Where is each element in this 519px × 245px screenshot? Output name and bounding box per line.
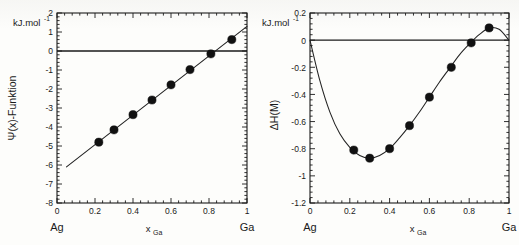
data-point <box>350 146 358 154</box>
data-point <box>485 24 493 32</box>
data-point <box>425 93 433 101</box>
chart-panel-right: -1.2-1-0.8-0.6-0.4-0.200.2 00.20.40.60.8… <box>260 0 519 245</box>
data-point <box>447 63 455 71</box>
data-point <box>167 81 175 89</box>
data-point <box>129 111 137 119</box>
left-unit-label: kJ.mol <box>13 17 40 28</box>
right-fit-curve <box>310 27 509 158</box>
l-x-tick-label: 0.8 <box>203 206 215 216</box>
data-point <box>110 126 118 134</box>
r-y-tick-label: -0.2 <box>291 63 306 73</box>
left-x-axis-title-subscript: Ga <box>153 229 162 236</box>
l-y-tick-label: 1 <box>48 27 53 37</box>
l-y-tick-label: -5 <box>45 141 53 151</box>
r-x-tick-label: 0 <box>308 206 313 216</box>
left-y-axis-title: Ψ(x)-Funktion <box>6 75 18 140</box>
data-point <box>405 122 413 130</box>
l-y-tick-label: -4 <box>45 122 53 132</box>
l-x-tick-label: 0.4 <box>127 206 139 216</box>
l-y-tick-label: -6 <box>45 160 53 170</box>
left-data-points <box>95 36 236 147</box>
left-fit-line <box>67 26 248 167</box>
data-point <box>386 145 394 153</box>
left-x-axis-title: x <box>146 223 151 234</box>
left-endmember-ga: Ga <box>240 221 256 233</box>
l-y-tick-label: -7 <box>45 179 53 189</box>
right-chart-svg: -1.2-1-0.8-0.6-0.4-0.200.2 00.20.40.60.8… <box>260 0 519 245</box>
data-point <box>207 50 215 58</box>
right-x-axis-title: x <box>410 223 415 234</box>
l-x-tick-label: 0 <box>55 206 60 216</box>
l-y-tick-label: -1 <box>45 65 53 75</box>
r-curve <box>310 27 509 158</box>
right-y-tick-labels: -1.2-1-0.8-0.6-0.4-0.200.2 <box>291 8 306 208</box>
r-x-tick-label: 1 <box>507 206 512 216</box>
r-x-tick-label: 0.6 <box>423 206 435 216</box>
right-endmember-ga: Ga <box>502 221 518 233</box>
r-x-tick-label: 0.8 <box>463 206 475 216</box>
left-x-tick-labels: 00.20.40.60.81 <box>55 206 250 216</box>
r-y-tick-label: -1 <box>298 171 306 181</box>
right-x-axis-title-subscript: Ga <box>417 229 426 236</box>
data-point <box>186 66 194 74</box>
right-data-points <box>350 24 494 162</box>
right-y-axis-title: ΔH(M) <box>268 100 280 130</box>
right-tick-marks <box>310 13 509 203</box>
right-x-tick-labels: 00.20.40.60.81 <box>308 206 512 216</box>
r-y-tick-label: 0 <box>301 36 306 46</box>
data-point <box>95 138 103 146</box>
l-x-tick-label: 0.2 <box>89 206 101 216</box>
r-y-tick-label: -0.4 <box>291 90 306 100</box>
data-point <box>366 154 374 162</box>
left-tick-marks <box>57 13 247 203</box>
right-axes <box>310 13 509 203</box>
l-curve <box>67 26 248 167</box>
data-point <box>228 36 236 44</box>
r-y-tick-label: -0.6 <box>291 117 306 127</box>
l-y-tick-label: 0 <box>48 46 53 56</box>
right-unit-exponent: -1 <box>293 15 299 22</box>
data-point <box>148 96 156 104</box>
r-x-tick-label: 0.2 <box>344 206 356 216</box>
left-unit-exponent: -1 <box>44 15 50 22</box>
l-y-tick-label: -2 <box>45 84 53 94</box>
l-y-tick-label: -3 <box>45 103 53 113</box>
chart-panel-left: -8-7-6-5-4-3-2-1012 00.20.40.60.81 kJ.mo… <box>0 0 259 245</box>
r-x-tick-label: 0.4 <box>384 206 396 216</box>
r-y-tick-label: -1.2 <box>291 198 306 208</box>
r-y-tick-label: -0.8 <box>291 144 306 154</box>
figure-canvas: -8-7-6-5-4-3-2-1012 00.20.40.60.81 kJ.mo… <box>0 0 519 245</box>
l-x-tick-label: 0.6 <box>165 206 177 216</box>
data-point <box>467 39 475 47</box>
left-chart-svg: -8-7-6-5-4-3-2-1012 00.20.40.60.81 kJ.mo… <box>0 0 259 245</box>
left-endmember-ag: Ag <box>50 221 63 233</box>
l-y-tick-label: -8 <box>45 198 53 208</box>
l-x-tick-label: 1 <box>245 206 250 216</box>
right-unit-label: kJ.mol <box>262 17 289 28</box>
left-axes <box>57 13 247 203</box>
left-y-tick-labels: -8-7-6-5-4-3-2-1012 <box>45 8 53 208</box>
right-endmember-ag: Ag <box>303 221 316 233</box>
